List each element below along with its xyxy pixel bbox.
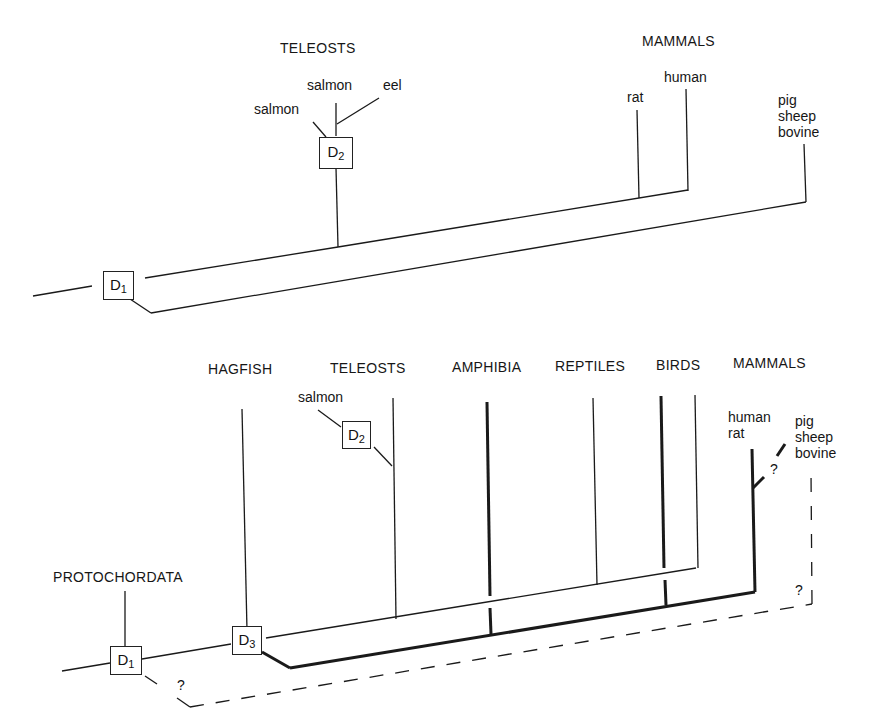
hagfish-branch bbox=[242, 409, 247, 630]
species-label-sheep: sheep bbox=[795, 430, 833, 445]
uncertain-mark: ? bbox=[770, 461, 778, 477]
species-label-pig: pig bbox=[795, 414, 814, 429]
group-label-teleosts: TELEOSTS bbox=[280, 40, 356, 56]
duplication-box-d3: D3 bbox=[232, 626, 262, 655]
salmon-a-branch bbox=[313, 122, 326, 137]
birds-branch bbox=[665, 580, 666, 605]
reptiles-branch bbox=[593, 398, 597, 585]
eel-branch bbox=[337, 98, 379, 124]
species-label-bovine: bovine bbox=[795, 446, 836, 461]
rat-branch bbox=[637, 110, 639, 198]
group-label-reptiles: REPTILES bbox=[555, 358, 625, 374]
pig-sheep-bovine-branch bbox=[804, 144, 806, 202]
species-label-eel: eel bbox=[383, 78, 402, 93]
species-label-human: human bbox=[728, 410, 771, 425]
group-label-hagfish: HAGFISH bbox=[208, 361, 272, 377]
group-label-amphibia: AMPHIBIA bbox=[452, 359, 521, 375]
species-label-bovine: bovine bbox=[778, 125, 819, 140]
group-label-birds: BIRDS bbox=[656, 357, 700, 373]
top-root-branch bbox=[33, 286, 92, 296]
salmon-branch bbox=[318, 410, 341, 427]
species-label-sheep: sheep bbox=[778, 109, 816, 124]
species-label-pig: pig bbox=[778, 93, 797, 108]
species-label-human: human bbox=[664, 70, 707, 85]
group-label-mammals: MAMMALS bbox=[642, 33, 715, 49]
group-label-mammals: MAMMALS bbox=[733, 355, 806, 371]
duplication-box-d2: D2 bbox=[319, 137, 353, 169]
teleost-branch bbox=[393, 398, 396, 619]
bottom-root-branch bbox=[62, 663, 110, 671]
species-label-salmon: salmon bbox=[254, 102, 299, 117]
species-label-salmon: salmon bbox=[307, 78, 352, 93]
uncertain-mark: ? bbox=[795, 582, 803, 598]
duplication-box-d2: D2 bbox=[342, 421, 371, 449]
human-branch bbox=[686, 89, 688, 191]
group-label-protochordata: PROTOCHORDATA bbox=[53, 569, 183, 585]
duplication-box-d1: D1 bbox=[103, 271, 134, 300]
teleost-branch bbox=[336, 168, 338, 247]
uncertain-mark: ? bbox=[177, 677, 185, 693]
human-rat-branch bbox=[752, 449, 755, 592]
species-label-rat: rat bbox=[627, 90, 643, 105]
species-label-rat: rat bbox=[728, 426, 744, 441]
amphibia-branch bbox=[490, 608, 491, 634]
group-label-teleosts: TELEOSTS bbox=[330, 360, 406, 376]
duplication-box-d1: D1 bbox=[110, 646, 142, 675]
species-label-salmon: salmon bbox=[298, 390, 343, 405]
